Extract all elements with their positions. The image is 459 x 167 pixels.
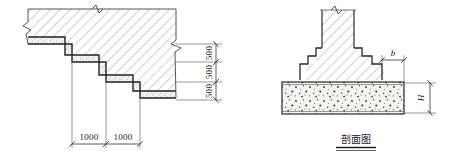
pedestal-hatch-body (306, 10, 384, 80)
left-figure-stepped-plan: 1000 1000 500 500 500 (23, 5, 222, 148)
dimension-label-1000-a: 1000 (79, 132, 98, 142)
concrete-footing-block (282, 82, 404, 114)
engineering-drawing-canvas: 1000 1000 500 500 500 (0, 0, 459, 167)
section-view-caption: 剖面图 (336, 133, 376, 151)
dimension-label-b: b (391, 48, 396, 58)
dimension-label-500-b: 500 (204, 65, 214, 80)
masonry-hatch-body (28, 9, 176, 98)
dimension-b: b (382, 48, 404, 82)
dimension-label-1000-b: 1000 (113, 132, 132, 142)
vertical-dimension-chain: 500 500 500 (176, 44, 222, 100)
right-figure-section-view: b H 剖面图 (282, 6, 436, 151)
dimension-label-500-a: 500 (204, 46, 214, 61)
dimension-H: H (404, 83, 436, 113)
drawing-sheet: 1000 1000 500 500 500 (0, 0, 459, 167)
dimension-label-H: H (416, 94, 426, 102)
dimension-label-500-c: 500 (204, 84, 214, 99)
caption-label: 剖面图 (341, 133, 371, 145)
